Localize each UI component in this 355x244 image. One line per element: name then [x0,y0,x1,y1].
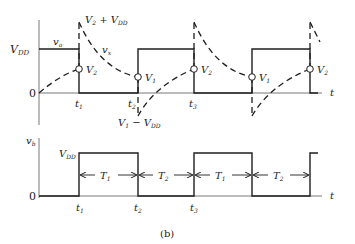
tick-t3: t3 [189,98,197,110]
marker-label-v2: V2 [86,64,97,76]
zero-label: 0 [29,87,36,100]
tick-t2: t2 [128,98,136,110]
bottom-t-axis-label: t [330,190,335,201]
marker-label-v1: V1 [145,72,156,84]
vb-label: vb [26,135,36,147]
bottom-zero-label: 0 [29,190,36,203]
astable-multivibrator-waveforms: VDD 0 va vx V2 + VDD V1 − VDD V2 V1 V2 V… [0,0,355,244]
marker-v2 [191,66,198,73]
interval-T2: T2 [273,170,284,182]
bottom-tick-t2: t2 [134,202,142,214]
figure-caption: (b) [160,228,174,239]
level-vdd-label: VDD [10,43,30,57]
tick-t1: t1 [75,98,83,110]
bottom-tick-t1: t1 [76,202,84,214]
interval-T2: T2 [158,170,169,182]
bottom-tick-t3: t3 [190,202,198,214]
interval-T1: T1 [215,170,226,182]
marker-label-v2: V2 [317,64,328,76]
top-plot: VDD 0 va vx V2 + VDD V1 − VDD V2 V1 V2 V… [10,14,335,129]
bottom-level-vdd-label: VDD [59,148,76,160]
t-axis-label: t [330,87,335,98]
marker-v1 [135,74,142,81]
marker-v2 [76,66,83,73]
marker-label-v2: V2 [201,64,212,76]
va-label: va [53,36,63,48]
interval-T1: T1 [100,170,111,182]
trough-label: V1 − VDD [118,117,161,129]
marker-v2 [307,66,314,73]
bottom-plot: T1 T2 T1 T2 vb VDD 0 t t1 t2 t3 [26,135,335,214]
vx-label: vx [102,44,112,56]
marker-label-v1: V1 [259,72,270,84]
peak-label: V2 + VDD [85,14,128,26]
marker-v1 [249,74,256,81]
